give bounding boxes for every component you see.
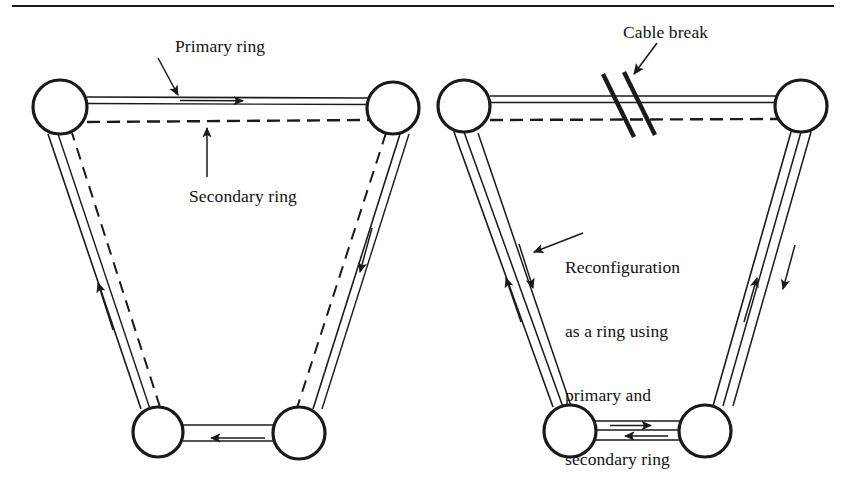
node-left-bottom-left[interactable] [133,407,183,457]
primary-ring-label: Primary ring [175,36,265,57]
reconfiguration-line-3: primary and [565,385,680,406]
figure-canvas: Primary ring Secondary ring Cable break … [0,0,846,479]
cable-break-label: Cable break [623,22,708,43]
right-right-side-link [713,132,811,406]
node-right-bottom-right[interactable] [679,405,731,457]
left-secondary-top-link [87,120,369,122]
left-primary-top-link [87,97,368,105]
secondary-ring-label: Secondary ring [189,186,297,207]
left-primary-left-link [48,134,150,409]
cable-break-marker [603,72,655,137]
left-secondary-right-link [297,133,386,408]
left-right-link-arrow [360,228,372,272]
node-left-bottom-right[interactable] [273,407,325,459]
right-left-side-link [454,132,571,407]
left-secondary-left-link [72,133,160,407]
primary-ring-leader-line [158,58,178,95]
reconfiguration-line-4: secondary ring [565,449,680,470]
cable-break-leader-line [634,43,657,74]
left-primary-right-link [313,134,409,409]
left-diagram-group [33,58,419,459]
diagram-svg [0,0,846,479]
node-left-top-right[interactable] [367,82,419,134]
right-secondary-top-link [490,119,778,120]
reconfiguration-label: Reconfiguration as a ring using primary … [565,214,680,479]
left-bottom-link [183,425,274,441]
node-left-top-left[interactable] [33,80,87,134]
reconfiguration-line-1: Reconfiguration [565,257,680,278]
node-right-top-left[interactable] [438,80,490,132]
reconfiguration-line-2: as a ring using [565,321,680,342]
node-right-top-right[interactable] [775,80,827,132]
